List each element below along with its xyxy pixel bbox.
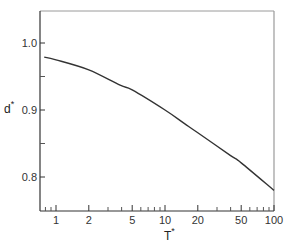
- y-ticks: 1.00.90.8: [22, 37, 45, 183]
- x-tick-label: 50: [235, 214, 247, 226]
- series-line: [44, 57, 274, 190]
- data-series: [44, 57, 274, 190]
- y-tick-label: 0.8: [22, 171, 37, 183]
- chart: 125102050100 1.00.90.8 d* T*: [0, 0, 294, 248]
- y-axis-label: d*: [4, 99, 15, 116]
- x-tick-label: 5: [129, 214, 135, 226]
- y-tick-label: 0.9: [22, 104, 37, 116]
- x-axis-label: T*: [164, 226, 175, 243]
- x-tick-label: 20: [192, 214, 204, 226]
- x-tick-label: 10: [159, 214, 171, 226]
- x-tick-label: 2: [86, 214, 92, 226]
- x-tick-label: 100: [265, 214, 283, 226]
- x-ticks: 125102050100: [45, 205, 283, 226]
- y-tick-label: 1.0: [22, 37, 37, 49]
- x-tick-label: 1: [53, 214, 59, 226]
